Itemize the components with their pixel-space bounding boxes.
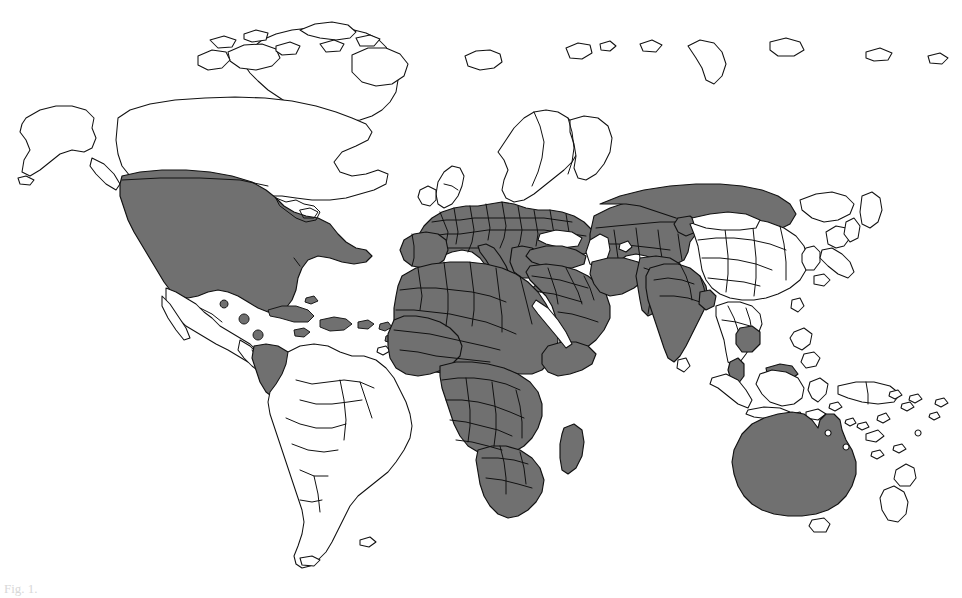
united-kingdom-landmass [436,166,464,208]
region-east-asia [690,192,900,421]
franz-josef-land [640,40,662,52]
pacific-dot-a [843,444,849,450]
arctic-islet-a [244,30,268,42]
finland-landmass [570,116,612,180]
indonesia-islet-b [829,402,842,411]
hispaniola-island [320,317,352,331]
pacific-islet-d [845,418,856,426]
philippines-south [801,352,820,368]
jamaica-island [294,328,310,337]
antilles-dot-a [239,314,249,324]
alaska-panhandle [90,158,120,190]
solomon-islands-b [909,394,922,403]
pacific-islet-a [935,398,948,407]
japan-kyushu [814,274,830,286]
philippines-north [790,328,812,350]
aleutian-islands [18,176,34,185]
vanuatu-islet [877,413,890,423]
region-north-america [18,97,398,386]
central-africa-landmass [440,362,542,456]
pacific-dot-b [915,430,921,436]
pacific-islet-e [893,444,906,453]
falkland-islands [360,537,376,547]
antilles-dot-b [253,330,263,340]
antilles-dot-c [220,300,228,308]
madagascar-island [560,424,584,474]
alaska-landmass [20,106,96,176]
tasmania-island [809,518,830,532]
japan-honshu [820,248,854,278]
world-map-canvas [0,0,962,580]
victoria-island [228,44,280,70]
puerto-rico-island [358,320,374,329]
caption-strip: Fig. 1. [0,584,962,598]
bahamas-islet [305,296,318,304]
wrangel-island [928,53,948,64]
pacific-islet-c [857,422,869,430]
severnaya-zemlya [770,38,804,56]
svalbard [566,43,592,59]
korea-peninsula [802,246,820,270]
china-landmass [690,218,808,300]
new-zealand-north [894,464,916,486]
arctic-islet-d [210,36,236,48]
svalbard-islet [600,41,616,51]
pacific-islet-f [871,450,884,459]
banks-island [198,50,230,70]
new-siberian-islands [866,48,892,61]
pacific-islet-b [929,412,940,420]
cuba-island [268,306,314,322]
new-caledonia-islet [866,430,884,442]
kamchatka-peninsula [860,192,882,228]
russia-far-east [800,192,854,222]
india-landmass [646,264,708,362]
figure-caption: Fig. 1. [4,584,38,596]
south-america-landmass [268,344,412,568]
baffin-island [352,48,408,86]
australia-landmass [732,412,856,516]
world-map-figure: Fig. 1. [0,0,962,598]
ireland-landmass [418,186,436,206]
region-south-america [252,344,412,568]
fiji-islet [901,402,914,411]
sulawesi-island [808,378,828,402]
horn-of-africa-landmass [542,342,596,376]
novaya-zemlya [688,40,726,84]
iceland [465,50,502,70]
cambodia-laos-landmass [736,326,760,352]
new-zealand-south [880,486,908,522]
sri-lanka-island [677,358,690,372]
taiwan-island [791,298,804,312]
pacific-dot-c [825,430,831,436]
sumatra-island [710,374,752,408]
